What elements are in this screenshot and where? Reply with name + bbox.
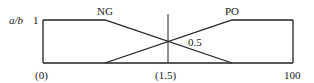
x-tick-left: (0) [35, 69, 48, 82]
po-label: PO [225, 5, 239, 17]
x-tick-middle: (1.5) [155, 69, 176, 82]
x-tick-right: 100 [284, 69, 301, 81]
y-axis-label: a/b [9, 14, 24, 26]
ng-label: NG [97, 5, 113, 17]
y-tick-top: 1 [33, 14, 39, 26]
crossing-value-label: 0.5 [188, 36, 202, 48]
ng-membership-curve [43, 20, 232, 63]
membership-function-diagram: a/b 1 NG PO 0.5 (0) (1.5) 100 [0, 0, 314, 83]
